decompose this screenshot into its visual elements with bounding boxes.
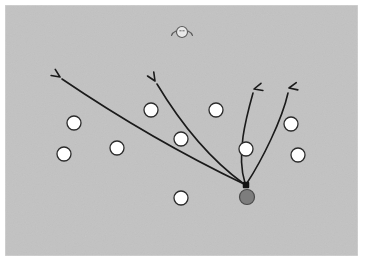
player-5 [174,132,188,146]
head-icon-outline [177,27,188,38]
player-3 [110,141,124,155]
court-surface [5,5,358,256]
player-4 [144,103,158,117]
player-7 [239,142,253,156]
player-10 [174,191,188,205]
player-1 [67,116,81,130]
play-diagram: Attack play diagram [0,0,367,271]
ball [240,190,255,205]
origin-marker [243,182,250,189]
diagram-canvas [0,0,367,271]
player-2 [57,147,71,161]
player-9 [291,148,305,162]
player-8 [284,117,298,131]
player-6 [209,103,223,117]
